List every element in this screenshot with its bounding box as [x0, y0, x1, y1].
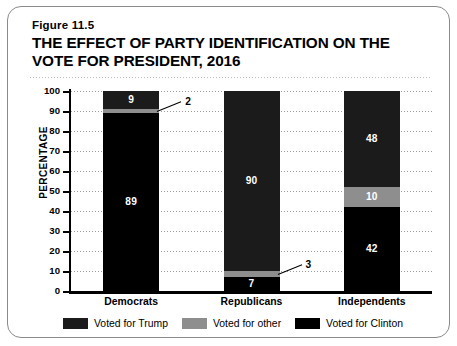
y-axis-tick [63, 131, 69, 133]
y-axis-tick-label: 80 [34, 126, 60, 136]
legend-item[interactable]: Voted for other [182, 318, 281, 329]
legend-swatch [182, 318, 207, 329]
y-axis-tick-label: 90 [34, 106, 60, 116]
bar-segment-value: 89 [125, 197, 137, 207]
legend-swatch [295, 318, 320, 329]
y-axis-tick [63, 91, 69, 93]
plot-area: 92899037481042 [71, 91, 432, 291]
legend-label: Voted for Trump [94, 318, 168, 329]
y-axis-tick-label: 10 [34, 266, 60, 276]
x-axis-line [69, 291, 432, 294]
bar-segment[interactable]: 90 [224, 91, 280, 271]
legend-item[interactable]: Voted for Trump [63, 318, 168, 329]
legend-item[interactable]: Voted for Clinton [295, 318, 403, 329]
bar-segment[interactable]: 7 [224, 277, 280, 291]
y-axis-tick-label: 0 [34, 286, 60, 296]
y-axis-tick-labels: 1009080706050403020100 [32, 7, 60, 338]
bar-segment[interactable]: 42 [344, 207, 400, 291]
y-axis-tick-label: 30 [34, 226, 60, 236]
y-axis-tick [63, 251, 69, 253]
y-axis-tick-label: 50 [34, 186, 60, 196]
chart: PERCENTAGE 1009080706050403020100 928990… [8, 7, 450, 338]
bar-segment-value: 48 [366, 134, 378, 144]
y-axis-tick [63, 291, 69, 293]
y-axis-tick [63, 171, 69, 173]
bar-republicans[interactable]: 9037 [224, 91, 280, 291]
y-axis-tick-label: 100 [34, 86, 60, 96]
bar-segment[interactable]: 9 [103, 91, 159, 109]
y-axis-tick-label: 60 [34, 166, 60, 176]
x-axis-label-independents: Independents [312, 296, 432, 307]
y-axis-tick [63, 191, 69, 193]
legend-label: Voted for Clinton [326, 318, 403, 329]
y-axis-tick [63, 151, 69, 153]
bar-segment-value: 42 [366, 244, 378, 254]
bar-independents[interactable]: 481042 [344, 91, 400, 291]
x-axis-label-republicans: Republicans [192, 296, 312, 307]
bar-segment-value: 9 [128, 95, 134, 105]
democrats-other-callout: 2 [185, 97, 191, 107]
bar-segment[interactable]: 89 [103, 113, 159, 291]
y-axis-tick [63, 231, 69, 233]
x-axis-label-democrats: Democrats [71, 296, 191, 307]
bar-segment[interactable]: 48 [344, 91, 400, 187]
bar-segment[interactable]: 10 [344, 187, 400, 207]
figure-card: Figure 11.5 THE EFFECT OF PARTY IDENTIFI… [7, 6, 450, 338]
y-axis-tick [63, 211, 69, 213]
legend-swatch [63, 318, 88, 329]
bar-democrats[interactable]: 9289 [103, 91, 159, 291]
legend-label: Voted for other [213, 318, 281, 329]
bar-segment-value: 90 [246, 176, 258, 186]
bar-segment-value: 10 [366, 192, 378, 202]
y-axis-tick-label: 20 [34, 246, 60, 256]
republicans-other-callout: 3 [306, 260, 312, 270]
y-axis-tick [63, 271, 69, 273]
bar-segment-value: 7 [249, 279, 255, 289]
y-axis-tick-label: 40 [34, 206, 60, 216]
y-axis-tick [63, 111, 69, 113]
y-axis-tick-label: 70 [34, 146, 60, 156]
chart-legend: Voted for TrumpVoted for otherVoted for … [63, 315, 423, 331]
